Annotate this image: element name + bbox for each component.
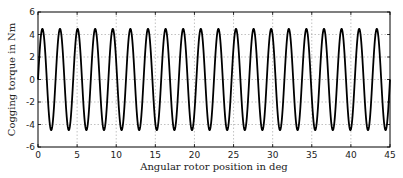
y-axis-label: Cogging torque in Nm: [6, 22, 17, 136]
y-tick-label: -2: [26, 97, 35, 107]
y-tick-label: 0: [29, 75, 35, 85]
x-tick-label: 0: [35, 150, 41, 160]
x-tick-label: 25: [228, 150, 239, 160]
x-tick-label: 10: [110, 150, 122, 160]
y-tick-label: -6: [26, 142, 35, 152]
x-tick-label: 40: [345, 150, 357, 160]
y-tick-label: -4: [26, 120, 35, 130]
cogging-torque-chart: 051015202530354045 -6-4-20246 Angular ro…: [0, 0, 403, 178]
y-tick-label: 6: [29, 7, 35, 17]
x-tick-label: 45: [384, 150, 395, 160]
x-tick-label: 20: [189, 150, 201, 160]
torque-line: [38, 29, 390, 130]
x-tick-label: 15: [150, 150, 161, 160]
y-tick-label: 4: [29, 30, 35, 40]
x-axis-label: Angular rotor position in deg: [139, 161, 288, 172]
torque-curve: [38, 29, 390, 130]
x-tick-label: 5: [74, 150, 80, 160]
x-tick-label: 30: [267, 150, 279, 160]
y-tick-label: 2: [29, 52, 35, 62]
x-tick-label: 35: [306, 150, 317, 160]
x-axis-ticks: 051015202530354045: [35, 12, 396, 160]
